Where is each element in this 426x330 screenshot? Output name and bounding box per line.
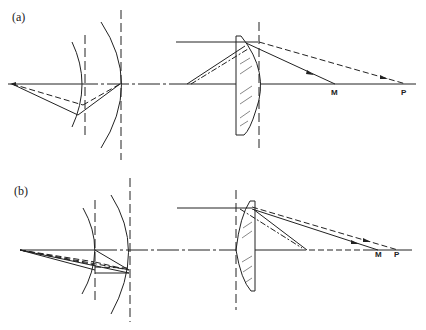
point-b-M: M [375,250,382,259]
lens-b [236,201,255,291]
ray-bundle-b [20,250,129,273]
arrow-b-P [363,238,371,242]
ray-b-to-P [252,207,398,250]
ray-b-to-M [252,209,378,250]
arrow-b-M [351,240,359,244]
point-a-P: P [401,88,407,97]
panel-a-label: (a) [12,10,25,24]
panel-b-label: (b) [14,184,28,198]
lens-a [236,36,261,135]
point-a-M: M [331,88,338,97]
ray-a-solid-1 [12,84,78,115]
panel-a: (a) [8,10,418,160]
arrow-a-P [380,75,388,79]
mirror-b-2 [111,195,129,314]
ray-a-dash-1 [12,84,83,105]
point-b-P: P [394,250,400,259]
arrow-a-M [306,70,314,75]
panel-b: (b) [14,178,412,322]
optics-diagram: (a) [0,0,426,330]
mirror-b-1 [82,208,95,294]
source-point-a [10,82,16,86]
ray-a-dash-2 [83,84,120,105]
ray-a-solid-2 [78,84,120,115]
